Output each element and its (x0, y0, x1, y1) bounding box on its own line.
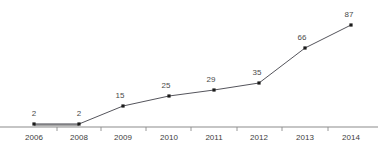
x-axis-category-label: 2012 (250, 133, 268, 142)
line-chart: 22152529356687 2006200820092010201120122… (0, 0, 384, 156)
data-point-value-label: 66 (298, 33, 307, 42)
chart-plot-area: 22152529356687 2006200820092010201120122… (0, 0, 384, 156)
x-axis-category-label: 2006 (25, 133, 43, 142)
data-point-value-label: 35 (253, 68, 262, 77)
data-point-marker[interactable] (349, 23, 352, 26)
x-axis-tick-labels: 20062008200920102011201220132014 (25, 133, 360, 142)
x-axis-category-label: 2011 (205, 133, 223, 142)
data-point-marker[interactable] (303, 46, 306, 49)
x-axis-category-label: 2009 (114, 133, 132, 142)
data-point-value-label: 2 (32, 109, 37, 118)
x-axis-category-label: 2013 (296, 133, 314, 142)
data-point-marker[interactable] (77, 122, 80, 125)
data-point-value-label: 87 (345, 10, 354, 19)
data-point-marker[interactable] (257, 81, 260, 84)
data-point-value-label: 25 (162, 81, 171, 90)
data-point-value-label: 15 (116, 91, 125, 100)
value-labels: 22152529356687 (32, 10, 354, 118)
data-point-marker[interactable] (121, 104, 124, 107)
data-point-marker[interactable] (32, 122, 35, 125)
x-axis-category-label: 2014 (342, 133, 360, 142)
data-point-marker[interactable] (167, 94, 170, 97)
x-axis-category-label: 2008 (70, 133, 88, 142)
x-axis-category-label: 2010 (160, 133, 178, 142)
data-point-value-label: 2 (77, 109, 82, 118)
data-point-marker[interactable] (212, 88, 215, 91)
data-point-value-label: 29 (207, 75, 216, 84)
